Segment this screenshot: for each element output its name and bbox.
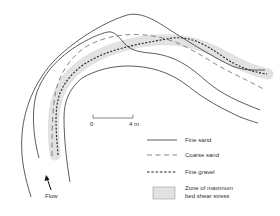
legend-coarse-sand-label: Coarse sand xyxy=(185,152,219,159)
flow-arrow-icon xyxy=(45,175,52,190)
legend-fine-sand-label: Fine sand xyxy=(185,137,211,144)
coarse-sand-line xyxy=(52,35,265,156)
flow-label: Flow xyxy=(45,193,58,200)
max-shear-zone xyxy=(53,40,268,155)
scale-end-label: 4 m xyxy=(129,121,139,128)
legend-zone-swatch xyxy=(153,187,175,199)
legend-fine-gravel-label: Fine gravel xyxy=(185,169,215,176)
scale-bar xyxy=(93,115,133,119)
river-bend-diagram xyxy=(0,0,280,216)
legend-zone-label-line1: Zone of maximum xyxy=(185,185,233,192)
scale-start-label: 0 xyxy=(90,121,93,128)
legend-symbols xyxy=(147,140,177,199)
legend-zone-label-line2: bed shear stress xyxy=(185,193,229,200)
